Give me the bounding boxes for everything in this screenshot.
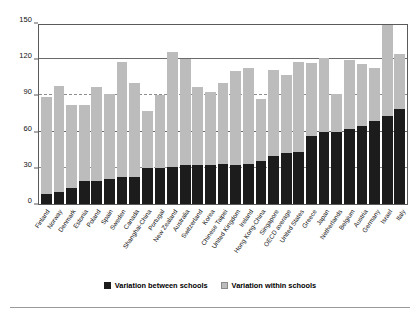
x-tick-slot: Greece xyxy=(306,206,317,266)
bar-segment-between-schools xyxy=(117,177,128,204)
x-tick-slot: New Zealand xyxy=(167,206,178,266)
bar-segment-within-schools xyxy=(331,94,342,131)
bar-segment-within-schools xyxy=(54,86,65,192)
bar-segment-within-schools xyxy=(129,83,140,177)
x-tick-slot: Sweden xyxy=(116,206,127,266)
bar-segment-within-schools xyxy=(117,62,128,178)
bar-segment-between-schools xyxy=(382,116,393,204)
y-tick-label-150: 150 xyxy=(19,15,32,24)
bar-segment-between-schools xyxy=(155,168,166,204)
bar-segment-within-schools xyxy=(230,71,241,165)
bar-column xyxy=(281,25,292,204)
x-axis: FinlandNorwayDenmarkEstoniaPolandSpainSw… xyxy=(38,206,408,266)
bar-series-container xyxy=(39,25,407,204)
legend-swatch-grey-square xyxy=(221,282,228,289)
bar-column xyxy=(91,25,102,204)
bar-segment-between-schools xyxy=(331,132,342,204)
bar-segment-between-schools xyxy=(256,161,267,204)
bar-column xyxy=(306,25,317,204)
bar-column xyxy=(331,25,342,204)
bar-column xyxy=(243,25,254,204)
bar-segment-within-schools xyxy=(281,75,292,153)
chart-legend: Variation between schools Variation with… xyxy=(0,281,420,290)
bar-column xyxy=(293,25,304,204)
bar-column xyxy=(268,25,279,204)
bar-segment-between-schools xyxy=(180,165,191,204)
x-tick-slot: Denmark xyxy=(65,206,76,266)
y-tick-label-0: 0 xyxy=(28,196,32,205)
bar-segment-within-schools xyxy=(243,68,254,165)
bar-segment-within-schools xyxy=(180,59,191,165)
bar-segment-between-schools xyxy=(357,126,368,204)
bar-column xyxy=(205,25,216,204)
bar-segment-between-schools xyxy=(142,168,153,204)
bar-column xyxy=(180,25,191,204)
y-tick-label-90: 90 xyxy=(23,87,32,96)
bar-segment-between-schools xyxy=(91,181,102,204)
bar-column xyxy=(79,25,90,204)
bar-segment-within-schools xyxy=(394,54,405,108)
bar-segment-within-schools xyxy=(344,60,355,129)
bar-segment-within-schools xyxy=(268,70,279,156)
bar-segment-within-schools xyxy=(319,58,330,132)
bar-column xyxy=(104,25,115,204)
bar-segment-within-schools xyxy=(192,87,203,165)
bar-segment-within-schools xyxy=(293,62,304,153)
y-tick-label-60: 60 xyxy=(23,123,32,132)
bar-segment-within-schools xyxy=(167,52,178,167)
bar-segment-between-schools xyxy=(66,188,77,204)
x-tick-slot: Poland xyxy=(91,206,102,266)
bar-column xyxy=(155,25,166,204)
bar-segment-between-schools xyxy=(344,129,355,204)
bar-segment-within-schools xyxy=(91,87,102,181)
bar-segment-between-schools xyxy=(104,179,115,204)
legend-swatch-black-square xyxy=(104,282,111,289)
bar-column xyxy=(129,25,140,204)
plot-area xyxy=(38,24,408,205)
x-tick-slot: Italy xyxy=(395,206,406,266)
bar-segment-between-schools xyxy=(79,181,90,204)
x-tick-label: Italy xyxy=(394,208,406,222)
bar-segment-within-schools xyxy=(142,111,153,168)
bar-column xyxy=(319,25,330,204)
bar-segment-within-schools xyxy=(104,94,115,178)
bar-segment-within-schools xyxy=(382,25,393,116)
y-tick-label-30: 30 xyxy=(23,159,32,168)
bar-segment-within-schools xyxy=(369,68,380,121)
x-tick-slot: Israel xyxy=(382,206,393,266)
bar-column xyxy=(382,25,393,204)
x-tick-slot: Estonia xyxy=(78,206,89,266)
x-tick-label: Israel xyxy=(379,208,394,225)
x-tick-slot: Belgium xyxy=(344,206,355,266)
bar-column xyxy=(394,25,405,204)
x-tick-slot: Austria xyxy=(357,206,368,266)
bar-segment-within-schools xyxy=(256,99,267,161)
x-tick-slot: United Kingdom xyxy=(230,206,241,266)
bar-segment-within-schools xyxy=(218,83,229,164)
bar-segment-within-schools xyxy=(66,105,77,188)
bar-column xyxy=(41,25,52,204)
y-axis: 0306090120150 xyxy=(0,24,38,205)
bar-segment-between-schools xyxy=(306,136,317,204)
x-tick-slot: Finland xyxy=(40,206,51,266)
bar-segment-between-schools xyxy=(281,153,292,204)
chart-figure: 0306090120150 FinlandNorwayDenmarkEstoni… xyxy=(0,0,420,318)
bar-column xyxy=(192,25,203,204)
bar-segment-between-schools xyxy=(129,177,140,204)
legend-label-between: Variation between schools xyxy=(115,281,208,290)
bar-segment-within-schools xyxy=(155,95,166,167)
bar-column xyxy=(54,25,65,204)
bar-column xyxy=(344,25,355,204)
bottom-divider xyxy=(10,307,410,308)
bar-segment-within-schools xyxy=(306,63,317,137)
bar-segment-within-schools xyxy=(41,97,52,195)
bar-column xyxy=(369,25,380,204)
bar-segment-within-schools xyxy=(205,92,216,166)
x-tick-slot: Netherlands xyxy=(332,206,343,266)
bar-column xyxy=(117,25,128,204)
bar-segment-between-schools xyxy=(369,121,380,204)
bar-segment-between-schools xyxy=(268,156,279,204)
legend-label-within: Variation within schools xyxy=(232,281,317,290)
x-tick-slot: Switzerland xyxy=(192,206,203,266)
x-tick-slot: United States xyxy=(294,206,305,266)
